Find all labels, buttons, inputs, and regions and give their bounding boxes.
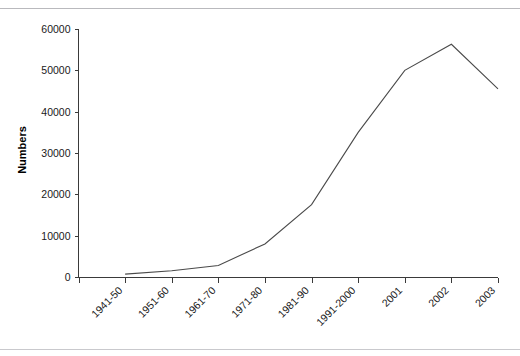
x-axis-tick-marks (79, 278, 499, 283)
y-axis-tick-label: 30000 (41, 147, 70, 159)
y-axis-tick-label: 40000 (41, 106, 70, 118)
x-axis-tick-labels: 1941-501951-601961-701971-801981-901991-… (89, 284, 498, 328)
y-axis-tick-label: 60000 (41, 23, 70, 35)
y-axis-title: Numbers (16, 126, 28, 174)
y-axis-tick-labels: 0100002000030000400005000060000 (41, 23, 70, 283)
bottom-divider-rule (0, 349, 520, 350)
y-axis-tick-label: 20000 (41, 188, 70, 200)
data-series-line (125, 44, 498, 274)
x-axis-tick-label: 1961-70 (182, 284, 218, 320)
chart-svg: 0100002000030000400005000060000 1941-501… (0, 0, 520, 356)
x-axis-tick-label: 2002 (426, 284, 451, 309)
line-chart: 0100002000030000400005000060000 1941-501… (0, 0, 520, 356)
x-axis-tick-label: 2003 (472, 284, 497, 309)
y-axis-tick-label: 10000 (41, 230, 70, 242)
y-axis-tick-label: 50000 (41, 64, 70, 76)
x-axis-tick-label: 1991-2000 (314, 284, 358, 328)
x-axis-tick-label: 1971-80 (229, 284, 265, 320)
x-axis-tick-label: 2001 (379, 284, 404, 309)
x-axis-tick-label: 1951-60 (135, 284, 171, 320)
y-axis-tick-marks (75, 30, 79, 278)
x-axis-tick-label: 1981-90 (275, 284, 311, 320)
x-axis-tick-label: 1941-50 (89, 284, 125, 320)
y-axis-tick-label: 0 (65, 271, 71, 283)
